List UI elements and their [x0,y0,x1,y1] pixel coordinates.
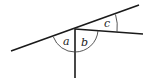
label-b: b [81,36,88,49]
label-c: c [104,17,110,30]
angle-diagram: a b c [0,0,153,84]
arc-c [116,15,118,33]
label-a: a [63,35,70,48]
